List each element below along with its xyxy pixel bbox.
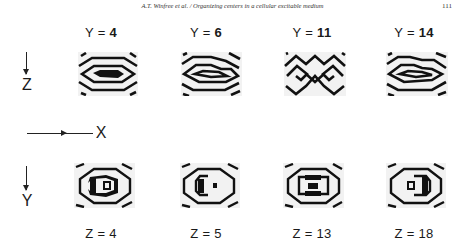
label-value: 14: [419, 25, 434, 40]
label-prefix: Y =: [394, 25, 415, 40]
bottom-label-1: Z = 4: [85, 226, 117, 241]
bottom-label-4: Z = 18: [394, 226, 433, 241]
page-number: 111: [442, 2, 452, 10]
top-label-3: Y = 11: [293, 25, 332, 40]
running-head: A.T. Winfree et al. / Organizing centers…: [0, 2, 465, 9]
panel-z5: [180, 163, 240, 208]
x-axis-arrow-icon: [27, 133, 93, 134]
label-value: 5: [214, 226, 222, 241]
z-axis-arrow-icon: [26, 52, 27, 74]
panel-z13: [283, 163, 344, 208]
panel-z18: [386, 163, 446, 208]
panel-y4: [78, 52, 138, 96]
concentric-lens-pattern: [78, 52, 138, 96]
top-label-2: Y = 6: [190, 25, 222, 40]
label-value: 4: [109, 226, 117, 241]
ring-right-bracket-pattern: [386, 163, 446, 208]
label-prefix: Y =: [85, 25, 106, 40]
ring-left-c-pattern: [180, 163, 240, 208]
label-prefix: Z =: [85, 226, 105, 241]
panel-y6: [181, 52, 242, 96]
ring-left-bracket-pattern: [74, 163, 135, 208]
panel-z4: [74, 163, 135, 208]
x-axis-label: X: [96, 124, 107, 142]
label-prefix: Y =: [190, 25, 211, 40]
z-axis-label: Z: [22, 76, 32, 94]
label-value: 13: [316, 226, 331, 241]
y-axis-label: Y: [22, 192, 33, 210]
label-value: 18: [418, 226, 433, 241]
panel-y11: [284, 52, 346, 96]
interlocked-spirals-pattern: [284, 52, 346, 96]
y-axis-arrow-icon: [26, 166, 27, 190]
ring-center-bar-pattern: [283, 163, 344, 208]
panel-y14: [386, 52, 448, 96]
label-value: 6: [214, 25, 222, 40]
bottom-label-2: Z = 5: [190, 226, 222, 241]
label-value: 4: [109, 25, 117, 40]
label-prefix: Z =: [394, 226, 414, 241]
label-prefix: Z =: [190, 226, 210, 241]
label-value: 11: [317, 25, 331, 40]
top-label-1: Y = 4: [85, 25, 117, 40]
nested-chevrons-pattern: [181, 52, 242, 96]
arrowhead-icon: [61, 130, 67, 136]
top-label-4: Y = 14: [394, 25, 434, 40]
bottom-label-3: Z = 13: [292, 226, 331, 241]
nested-chevrons-reversed-pattern: [386, 52, 448, 96]
label-prefix: Z =: [292, 226, 312, 241]
label-prefix: Y =: [293, 25, 314, 40]
